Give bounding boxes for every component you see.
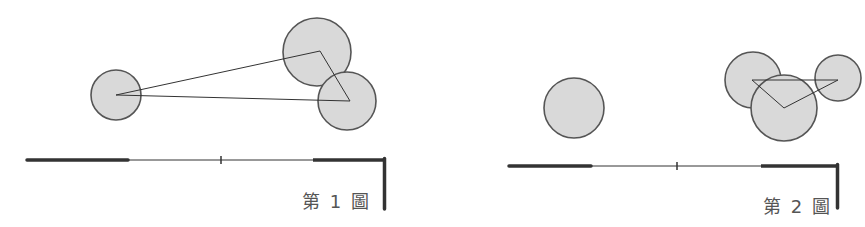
figure-1-caption: 第 1 圖 (302, 193, 371, 211)
circle-4 (815, 55, 861, 101)
figure-2-caption: 第 2 圖 (763, 198, 832, 216)
diagram-canvas (0, 0, 865, 227)
figure-2 (509, 52, 861, 208)
circle-1 (544, 78, 604, 138)
figure-1 (27, 18, 386, 209)
